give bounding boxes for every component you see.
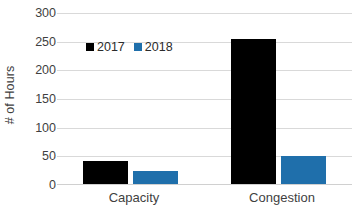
bar-capacity-2017 — [83, 161, 128, 184]
y-tick-label-100: 100 — [16, 121, 56, 135]
legend-label-2017: 2017 — [97, 41, 125, 54]
legend-swatch-icon-2018 — [134, 43, 142, 51]
y-tick-label-150: 150 — [16, 92, 56, 106]
legend-entry-2017: 2017 — [86, 41, 125, 54]
gridline-300 — [57, 13, 352, 14]
bar-congestion-2017 — [231, 39, 276, 184]
y-tick-label-50: 50 — [16, 149, 56, 163]
legend-entry-2018: 2018 — [134, 41, 173, 54]
y-axis-title-text: # of Hours — [3, 66, 17, 125]
legend: 2017 2018 — [86, 41, 173, 54]
gridline-100 — [57, 128, 352, 129]
legend-swatch-icon-2017 — [86, 43, 94, 51]
y-tick-label-0: 0 — [16, 178, 56, 192]
bar-chart: # of Hours 300 250 200 150 100 50 0 2017… — [0, 0, 358, 222]
gridline-150 — [57, 99, 352, 100]
x-category-label-capacity: Capacity — [109, 190, 160, 205]
y-tick-label-250: 250 — [16, 35, 56, 49]
bar-congestion-2018 — [281, 156, 326, 184]
x-category-label-congestion: Congestion — [249, 190, 315, 205]
legend-label-2018: 2018 — [145, 41, 173, 54]
y-tick-label-300: 300 — [16, 6, 56, 20]
gridline-200 — [57, 70, 352, 71]
y-tick-label-200: 200 — [16, 63, 56, 77]
plot-area — [57, 13, 352, 185]
bar-capacity-2018 — [133, 171, 178, 184]
gridline-zero-axis — [57, 184, 352, 185]
